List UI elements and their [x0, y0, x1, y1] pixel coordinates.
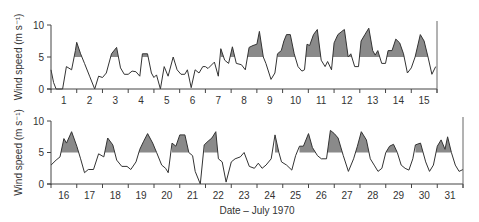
- top-panel: 0510123456789101112131415Wind speed (m s…: [13, 14, 437, 106]
- shaded-area-above-threshold: [333, 30, 352, 58]
- x-tick-label: 2: [87, 95, 93, 106]
- y-tick-label: 0: [38, 84, 44, 95]
- x-tick-label: 3: [113, 95, 119, 106]
- y-tick-label: 10: [33, 116, 45, 127]
- x-tick-label: 17: [84, 190, 96, 201]
- x-tick-label: 13: [367, 95, 379, 106]
- x-tick-label: 16: [58, 190, 70, 201]
- x-tick-label: 10: [290, 95, 302, 106]
- x-tick-label: 28: [367, 190, 379, 201]
- x-tick-label: 21: [187, 190, 199, 201]
- y-tick-label: 5: [38, 147, 44, 158]
- shaded-area-above-threshold: [139, 134, 171, 153]
- y-axis-title: Wind speed (m s⁻¹): [13, 109, 24, 196]
- x-tick-label: 25: [290, 190, 302, 201]
- wind-speed-line: [51, 28, 436, 89]
- x-tick-label: 4: [138, 95, 144, 106]
- y-axis-title: Wind speed (m s⁻¹): [13, 14, 24, 101]
- x-tick-label: 15: [419, 95, 431, 106]
- x-tick-label: 8: [241, 95, 247, 106]
- x-tick-label: 9: [267, 95, 273, 106]
- wind-speed-chart: 0510123456789101112131415Wind speed (m s…: [0, 0, 479, 222]
- x-tick-label: 31: [445, 190, 457, 201]
- x-tick-label: 27: [342, 190, 354, 201]
- x-tick-label: 5: [164, 95, 170, 106]
- x-tick-label: 24: [264, 190, 276, 201]
- shaded-area-above-threshold: [415, 35, 428, 57]
- x-tick-label: 22: [213, 190, 225, 201]
- x-tick-label: 12: [341, 95, 353, 106]
- x-tick-label: 26: [316, 190, 328, 201]
- x-tick-label: 14: [393, 95, 405, 106]
- figure: 0510123456789101112131415Wind speed (m s…: [0, 0, 479, 222]
- y-tick-label: 0: [38, 179, 44, 190]
- y-tick-label: 10: [33, 20, 45, 31]
- x-tick-label: 1: [61, 95, 67, 106]
- x-tick-label: 20: [161, 190, 173, 201]
- wind-speed-line: [51, 130, 463, 184]
- y-tick-label: 5: [38, 52, 44, 63]
- x-tick-label: 29: [393, 190, 405, 201]
- x-tick-label: 19: [136, 190, 148, 201]
- x-tick-label: 11: [316, 95, 327, 106]
- x-tick-label: 23: [239, 190, 251, 201]
- x-tick-label: 30: [419, 190, 431, 201]
- x-tick-label: 18: [110, 190, 122, 201]
- bottom-panel: 051016171819202122232425262728293031Wind…: [13, 109, 463, 201]
- x-tick-label: 6: [190, 95, 196, 106]
- x-axis-title: Date – July 1970: [219, 205, 294, 216]
- x-tick-label: 7: [215, 95, 221, 106]
